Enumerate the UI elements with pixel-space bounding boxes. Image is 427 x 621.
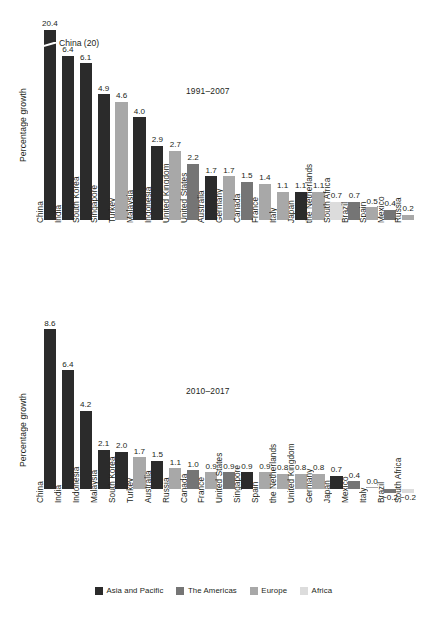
bar-value-label: 4.2 <box>80 401 91 409</box>
bar-group: Singapore4.9 <box>98 30 110 220</box>
legend-item-label: Asia and Pacific <box>106 586 163 595</box>
legend-item: Europe <box>250 586 287 595</box>
bar: −0.2 <box>402 489 414 493</box>
legend-swatch-icon <box>95 587 103 595</box>
figure-bar-charts: Percentage growth 1991–2007 China20.4Ind… <box>0 0 427 621</box>
bar-value-label: 0.9 <box>241 463 252 471</box>
bar-group: Germany0.8 <box>312 322 324 500</box>
bar-group: Italy1.1 <box>277 30 289 220</box>
bar-group: China8.6 <box>44 322 56 500</box>
bar-value-label: 1.1 <box>277 182 288 190</box>
bar-value-label: 1.4 <box>259 174 270 182</box>
bar-value-label: 2.9 <box>152 136 163 144</box>
bar-value-label: 0.4 <box>349 472 360 480</box>
bar-group: South Korea2.0 <box>115 322 127 500</box>
bar-value-label: 0.7 <box>349 192 360 200</box>
bar-value-label: 20.4 <box>42 20 58 28</box>
bar-value-label: 6.1 <box>80 54 91 62</box>
bar-value-label: 1.7 <box>134 448 145 456</box>
china-break-annotation: China (20) <box>59 38 99 48</box>
bar-group: South Africa0.7 <box>330 30 342 220</box>
bar-group: Brazil0.7 <box>348 30 360 220</box>
legend-item: Africa <box>300 586 332 595</box>
bar-value-label: 1.5 <box>241 172 252 180</box>
legend-item-label: The Americas <box>188 586 237 595</box>
legend-swatch-icon <box>250 587 258 595</box>
bar-group: Germany1.7 <box>223 30 235 220</box>
bar-value-label: 0.7 <box>331 192 342 200</box>
bar: 0.2 <box>402 215 414 220</box>
bar-value-label: 2.0 <box>116 442 127 450</box>
bar-group: China20.4 <box>44 30 56 220</box>
legend: Asia and PacificThe AmericasEuropeAfrica <box>0 586 427 595</box>
legend-item-label: Europe <box>261 586 287 595</box>
plot-area-panel2: China8.6India6.4Indonesia4.2Malaysia2.1S… <box>41 322 417 500</box>
legend-swatch-icon <box>176 587 184 595</box>
bar: 8.6 <box>44 329 56 488</box>
chart-panel-2010-2017: Percentage growth 2010–2017 China8.6Indi… <box>0 310 427 580</box>
legend-item: Asia and Pacific <box>95 586 164 595</box>
bar-group: Canada1.0 <box>187 322 199 500</box>
bar-value-label: 1.7 <box>205 167 216 175</box>
bar-group: South Africa−0.2 <box>402 322 414 500</box>
bar-value-label: 2.2 <box>188 154 199 162</box>
bar-group: Spain0.5 <box>366 30 378 220</box>
axis-break-icon <box>42 42 58 52</box>
legend-swatch-icon <box>300 587 308 595</box>
bar-value-label: 2.1 <box>98 440 109 448</box>
bar-group: Japan0.7 <box>330 322 342 500</box>
bar-value-label: 6.4 <box>62 361 73 369</box>
bar-group: Russia0.2 <box>402 30 414 220</box>
bar-value-label: 1.7 <box>223 167 234 175</box>
bar-group: Italy0.0 <box>366 322 378 500</box>
bar-value-label: 0.7 <box>331 466 342 474</box>
bar-value-label: 1.0 <box>188 461 199 469</box>
bar-value-label: 4.0 <box>134 108 145 116</box>
bar-value-label: −0.2 <box>400 494 416 502</box>
bar-value-label: 8.6 <box>44 320 55 328</box>
bar-value-label: 4.6 <box>116 92 127 100</box>
x-axis-category-label: Mexico <box>341 476 350 503</box>
bar-group: Mexico0.4 <box>384 30 396 220</box>
bar-group: France1.4 <box>259 30 271 220</box>
bar-group: Australia1.5 <box>151 322 163 500</box>
legend-item: The Americas <box>176 586 236 595</box>
y-axis-label-panel2: Percentage growth <box>18 375 28 485</box>
bar-value-label: 0.8 <box>313 464 324 472</box>
bar-value-label: 1.5 <box>152 451 163 459</box>
plot-area-panel1: China20.4India6.4South Korea6.1Singapore… <box>41 30 417 220</box>
bar-value-label: 0.2 <box>402 205 413 213</box>
bar-value-label: 2.7 <box>170 141 181 149</box>
legend-item-label: Africa <box>312 586 333 595</box>
x-axis-category-label: Italy <box>359 487 368 503</box>
bar-group: Canada1.5 <box>241 30 253 220</box>
bar-group: Singapore0.9 <box>241 322 253 500</box>
bar-value-label: 4.9 <box>98 85 109 93</box>
bar-value-label: 1.1 <box>170 459 181 467</box>
bar-group: Mexico0.4 <box>348 322 360 500</box>
chart-panel-1991-2007: Percentage growth 1991–2007 China20.4Ind… <box>0 0 427 310</box>
bar: 20.4 <box>44 30 56 220</box>
y-axis-label-panel1: Percentage growth <box>18 70 28 180</box>
